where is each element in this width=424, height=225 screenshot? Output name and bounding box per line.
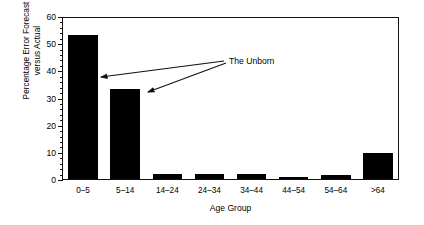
y-tick-minor [60,55,63,56]
y-tick-major [58,44,63,45]
y-tick-major [58,71,63,72]
y-tick-major [58,126,63,127]
bar [195,174,224,179]
x-tick-label: >64 [371,186,385,195]
x-tick-label: 5–14 [116,186,134,195]
y-tick-major [58,180,63,181]
y-tick-major [58,17,63,18]
bar [321,175,350,179]
y-tick-label: 60 [46,12,56,22]
y-tick-minor [60,33,63,34]
y-tick-minor [60,175,63,176]
x-tick-label: 24–34 [198,186,221,195]
y-tick-minor [60,115,63,116]
y-tick-minor [60,88,63,89]
x-tick-label: 44–54 [282,186,305,195]
bar [279,177,308,179]
y-tick-minor [60,158,63,159]
y-tick-minor [60,22,63,23]
bar [237,174,266,179]
annotation-the-unborn: The Unborn [229,56,274,66]
y-tick-minor [60,82,63,83]
x-tick-label: 34–44 [240,186,263,195]
y-tick-minor [60,28,63,29]
y-tick-label: 20 [46,121,56,131]
y-tick-minor [60,66,63,67]
y-tick-major [58,99,63,100]
y-tick-minor [60,77,63,78]
y-axis-title-line-1: Percentage Error Forecast [22,0,33,131]
y-tick-minor [60,164,63,165]
x-axis-title: Age Group [62,203,399,213]
y-tick-minor [60,120,63,121]
y-tick-label: 0 [51,175,56,185]
bar [153,174,182,179]
y-tick-minor [60,60,63,61]
y-axis: 0102030405060 [62,17,63,181]
x-tick-label: 14–24 [156,186,179,195]
x-tick-label: 0–5 [76,186,90,195]
y-tick-label: 30 [46,94,56,104]
bar [363,153,392,179]
y-tick-minor [60,104,63,105]
y-axis-title-line-2: versus Actual [32,0,43,131]
x-tick-label: 54–64 [324,186,347,195]
plot-area [62,17,399,180]
y-tick-minor [60,131,63,132]
bars-layer [62,18,398,179]
y-tick-major [58,153,63,154]
y-tick-label: 40 [46,66,56,76]
y-tick-minor [60,147,63,148]
y-tick-label: 10 [46,148,56,158]
bar-chart-figure: Percentage Error Forecast versus Actual … [0,0,424,225]
y-axis-title: Percentage Error Forecast versus Actual [22,0,43,131]
y-tick-label: 50 [46,39,56,49]
y-tick-minor [60,93,63,94]
bar [68,35,97,179]
y-tick-minor [60,169,63,170]
y-tick-minor [60,109,63,110]
y-tick-minor [60,50,63,51]
y-tick-minor [60,39,63,40]
y-tick-minor [60,137,63,138]
bar [110,89,139,179]
y-tick-minor [60,142,63,143]
